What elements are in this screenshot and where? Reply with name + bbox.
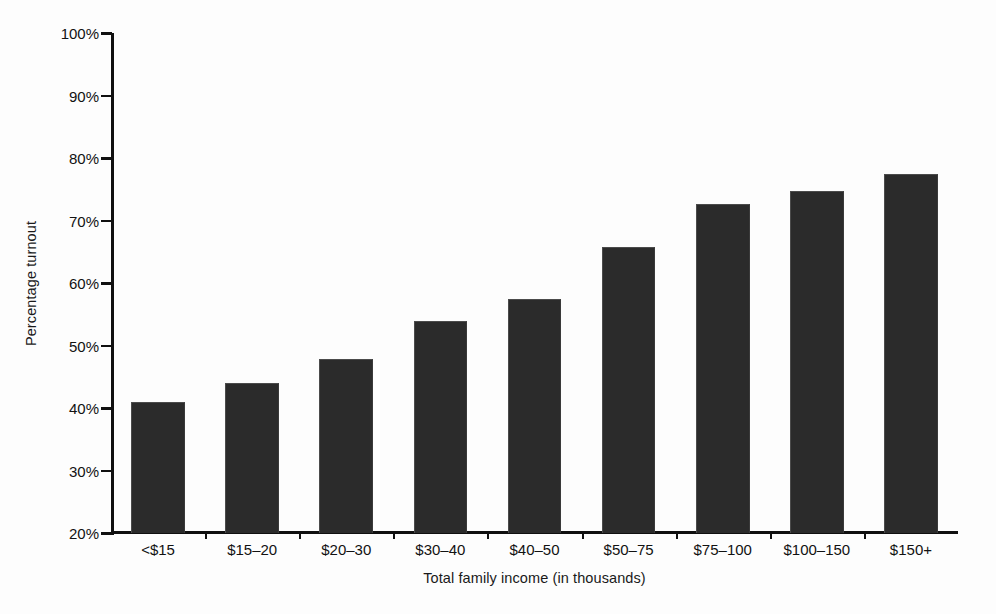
x-axis-tick-mark bbox=[393, 533, 395, 539]
bar bbox=[508, 299, 562, 533]
y-axis-tick-label: 90% bbox=[37, 87, 99, 104]
y-axis-tick-label: 30% bbox=[37, 462, 99, 479]
bar bbox=[790, 191, 844, 533]
x-axis-tick-mark bbox=[487, 533, 489, 539]
bar bbox=[131, 402, 185, 533]
y-axis-tick-label: 20% bbox=[37, 525, 99, 542]
x-axis-tick-label: $20–30 bbox=[321, 541, 371, 558]
x-axis-tick-mark bbox=[582, 533, 584, 539]
plot-area bbox=[111, 33, 958, 533]
x-axis-tick-mark bbox=[864, 533, 866, 539]
x-axis-tick-labels: <$15$15–20$20–30$30–40$40–50$50–75$75–10… bbox=[111, 541, 958, 565]
y-axis-tick-label: 40% bbox=[37, 400, 99, 417]
x-axis-tick-mark bbox=[676, 533, 678, 539]
x-axis-tick-label: <$15 bbox=[141, 541, 175, 558]
x-axis-title: Total family income (in thousands) bbox=[111, 570, 958, 586]
bar-chart-figure: Percentage turnout 20%30%40%50%60%70%80%… bbox=[0, 0, 996, 614]
y-axis-tick-labels: 20%30%40%50%60%70%80%90%100% bbox=[37, 0, 99, 614]
x-axis-tick-label: $30–40 bbox=[415, 541, 465, 558]
y-axis-tick-label: 50% bbox=[37, 337, 99, 354]
bar bbox=[414, 321, 468, 533]
x-axis-tick-label: $15–20 bbox=[227, 541, 277, 558]
bar bbox=[696, 204, 750, 533]
bar bbox=[225, 383, 279, 533]
y-axis-tick-label: 80% bbox=[37, 150, 99, 167]
x-axis-tick-label: $40–50 bbox=[509, 541, 559, 558]
x-axis-tick-mark bbox=[205, 533, 207, 539]
y-axis-tick-label: 70% bbox=[37, 212, 99, 229]
x-axis-tick-mark bbox=[770, 533, 772, 539]
x-axis-tick-label: $50–75 bbox=[604, 541, 654, 558]
y-axis-tick-label: 60% bbox=[37, 275, 99, 292]
x-axis-tick-marks bbox=[111, 533, 958, 540]
bar bbox=[602, 247, 656, 533]
y-axis-tick-label: 100% bbox=[37, 25, 99, 42]
x-axis-tick-label: $150+ bbox=[890, 541, 932, 558]
x-axis-tick-mark bbox=[299, 533, 301, 539]
bar bbox=[884, 174, 938, 533]
x-axis-tick-label: $75–100 bbox=[694, 541, 752, 558]
x-axis-tick-label: $100–150 bbox=[783, 541, 850, 558]
bar bbox=[319, 359, 373, 533]
